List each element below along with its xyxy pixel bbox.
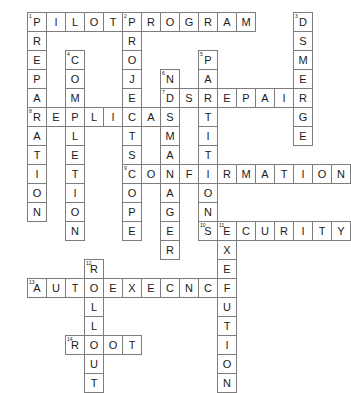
crossword-cell[interactable]: 13A	[27, 278, 47, 298]
crossword-cell[interactable]: O	[141, 164, 161, 184]
crossword-cell[interactable]: R	[122, 31, 142, 51]
crossword-cell[interactable]: 8R	[27, 107, 47, 127]
crossword-cell[interactable]: T	[27, 145, 47, 165]
crossword-cell[interactable]: 3D	[293, 12, 313, 32]
crossword-cell[interactable]: 7D	[160, 88, 180, 108]
crossword-cell[interactable]: S	[122, 145, 142, 165]
crossword-cell[interactable]: 12R	[84, 259, 104, 279]
crossword-cell[interactable]: A	[255, 164, 275, 184]
crossword-cell[interactable]: L	[65, 12, 85, 32]
crossword-cell[interactable]: R	[141, 12, 161, 32]
crossword-cell[interactable]: T	[312, 221, 332, 241]
crossword-cell[interactable]: R	[198, 12, 218, 32]
crossword-cell[interactable]: N	[179, 278, 199, 298]
crossword-cell[interactable]: M	[65, 88, 85, 108]
crossword-cell[interactable]: M	[236, 164, 256, 184]
crossword-cell[interactable]: T	[198, 107, 218, 127]
crossword-cell[interactable]: U	[255, 221, 275, 241]
crossword-cell[interactable]: T	[122, 335, 142, 355]
crossword-cell[interactable]: A	[160, 145, 180, 165]
crossword-cell[interactable]: R	[27, 31, 47, 51]
crossword-cell[interactable]: L	[84, 316, 104, 336]
crossword-cell[interactable]: A	[27, 88, 47, 108]
crossword-cell[interactable]: 6N	[160, 69, 180, 89]
crossword-cell[interactable]: J	[122, 69, 142, 89]
crossword-cell[interactable]: N	[160, 164, 180, 184]
crossword-cell[interactable]: E	[141, 278, 161, 298]
crossword-cell[interactable]: X	[217, 240, 237, 260]
crossword-cell[interactable]: E	[293, 69, 313, 89]
crossword-cell[interactable]: I	[217, 335, 237, 355]
crossword-cell[interactable]: L	[84, 297, 104, 317]
crossword-cell[interactable]: C	[198, 278, 218, 298]
crossword-cell[interactable]: P	[65, 107, 85, 127]
crossword-cell[interactable]: R	[198, 88, 218, 108]
crossword-cell[interactable]: T	[84, 373, 104, 393]
crossword-cell[interactable]: A	[255, 88, 275, 108]
crossword-cell[interactable]: E	[65, 145, 85, 165]
crossword-cell[interactable]: Y	[331, 221, 351, 241]
crossword-cell[interactable]: S	[160, 107, 180, 127]
crossword-cell[interactable]: O	[84, 335, 104, 355]
crossword-cell[interactable]: O	[84, 278, 104, 298]
crossword-cell[interactable]: I	[293, 221, 313, 241]
crossword-cell[interactable]: S	[179, 88, 199, 108]
crossword-cell[interactable]: O	[103, 335, 123, 355]
crossword-cell[interactable]: A	[27, 126, 47, 146]
crossword-cell[interactable]: O	[27, 183, 47, 203]
crossword-cell[interactable]: O	[65, 69, 85, 89]
crossword-cell[interactable]: T	[217, 316, 237, 336]
crossword-cell[interactable]: C	[122, 107, 142, 127]
crossword-cell[interactable]: L	[84, 107, 104, 127]
crossword-cell[interactable]: 9C	[122, 164, 142, 184]
crossword-cell[interactable]: E	[122, 88, 142, 108]
crossword-cell[interactable]: E	[46, 107, 66, 127]
crossword-cell[interactable]: R	[293, 88, 313, 108]
crossword-cell[interactable]: A	[141, 107, 161, 127]
crossword-cell[interactable]: U	[217, 297, 237, 317]
crossword-cell[interactable]: P	[236, 88, 256, 108]
crossword-cell[interactable]: I	[27, 164, 47, 184]
crossword-cell[interactable]: O	[160, 12, 180, 32]
crossword-cell[interactable]: F	[179, 164, 199, 184]
crossword-cell[interactable]: A	[217, 12, 237, 32]
crossword-cell[interactable]: I	[198, 164, 218, 184]
crossword-cell[interactable]: 5P	[198, 50, 218, 70]
crossword-cell[interactable]: C	[160, 278, 180, 298]
crossword-cell[interactable]: 10S	[198, 221, 218, 241]
crossword-cell[interactable]: I	[103, 107, 123, 127]
crossword-cell[interactable]: U	[46, 278, 66, 298]
crossword-cell[interactable]: X	[122, 278, 142, 298]
crossword-cell[interactable]: P	[122, 202, 142, 222]
crossword-cell[interactable]: O	[84, 12, 104, 32]
crossword-cell[interactable]: T	[65, 164, 85, 184]
crossword-cell[interactable]: 2P	[122, 12, 142, 32]
crossword-cell[interactable]: N	[198, 202, 218, 222]
crossword-cell[interactable]: T	[65, 278, 85, 298]
crossword-cell[interactable]: R	[274, 221, 294, 241]
crossword-cell[interactable]: N	[65, 221, 85, 241]
crossword-cell[interactable]: T	[103, 12, 123, 32]
crossword-cell[interactable]: E	[103, 278, 123, 298]
crossword-cell[interactable]: A	[160, 183, 180, 203]
crossword-cell[interactable]: E	[27, 50, 47, 70]
crossword-cell[interactable]: M	[293, 50, 313, 70]
crossword-cell[interactable]: E	[217, 88, 237, 108]
crossword-cell[interactable]: O	[65, 202, 85, 222]
crossword-cell[interactable]: N	[217, 373, 237, 393]
crossword-cell[interactable]: E	[160, 221, 180, 241]
crossword-cell[interactable]: E	[122, 221, 142, 241]
crossword-cell[interactable]: T	[122, 126, 142, 146]
crossword-cell[interactable]: 14R	[65, 335, 85, 355]
crossword-cell[interactable]: I	[293, 164, 313, 184]
crossword-cell[interactable]: E	[217, 259, 237, 279]
crossword-cell[interactable]: A	[198, 69, 218, 89]
crossword-cell[interactable]: N	[27, 202, 47, 222]
crossword-cell[interactable]: O	[122, 50, 142, 70]
crossword-cell[interactable]: L	[65, 126, 85, 146]
crossword-cell[interactable]: G	[179, 12, 199, 32]
crossword-cell[interactable]: 1P	[27, 12, 47, 32]
crossword-cell[interactable]: I	[274, 88, 294, 108]
crossword-cell[interactable]: O	[312, 164, 332, 184]
crossword-cell[interactable]: I	[46, 12, 66, 32]
